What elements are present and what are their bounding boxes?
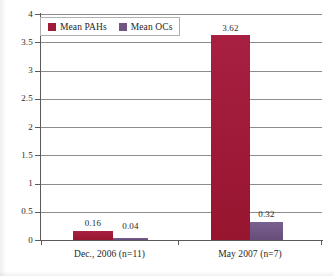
x-tick-mark-middle	[178, 240, 179, 245]
value-label-mean-pahs-dec-2006: 0.16	[73, 219, 113, 228]
bar-mean-pahs-dec-2006	[73, 231, 113, 240]
y-tick-mark-0.5	[35, 212, 41, 213]
chart-legend: Mean PAHs Mean OCs	[40, 17, 180, 36]
value-label-mean-pahs-may-2007: 3.62	[211, 24, 250, 33]
y-tick-label-2.5: 2.5	[3, 94, 33, 103]
y-tick-label-0.5: 0.5	[3, 207, 33, 216]
y-tick-mark-2.5	[35, 99, 41, 100]
bar-mean-pahs-may-2007	[211, 35, 250, 240]
legend-item-mean-ocs: Mean OCs	[119, 22, 173, 32]
legend-label-mean-ocs: Mean OCs	[131, 22, 173, 32]
bar-chart: 4 3.5 3 2.5 2 1.5 1 0.5 0 0.16 0.04 3.62…	[0, 0, 333, 276]
value-label-mean-ocs-may-2007: 0.32	[250, 210, 283, 219]
y-tick-label-3.5: 3.5	[3, 38, 33, 47]
y-tick-label-1: 1	[3, 179, 33, 188]
y-tick-label-4: 4	[3, 10, 33, 19]
gridline-4	[41, 14, 322, 15]
gridline-2.5	[41, 99, 322, 100]
legend-swatch-icon-mean-ocs	[119, 23, 127, 31]
legend-swatch-icon-mean-pahs	[48, 23, 56, 31]
y-tick-mark-4	[35, 14, 41, 15]
y-tick-mark-3.5	[35, 42, 41, 43]
scan-artifact-bottom	[0, 271, 333, 276]
y-tick-label-2: 2	[3, 123, 33, 132]
x-category-label-dec-2006: Dec., 2006 (n=11)	[41, 249, 178, 260]
x-axis-line	[41, 240, 323, 241]
x-category-label-may-2007: May 2007 (n=7)	[178, 249, 322, 260]
gridline-3.5	[41, 42, 322, 43]
legend-item-mean-pahs: Mean PAHs	[48, 22, 107, 32]
legend-label-mean-pahs: Mean PAHs	[60, 22, 107, 32]
plot-area	[41, 14, 322, 240]
y-tick-mark-1.5	[35, 155, 41, 156]
y-tick-label-0: 0	[3, 236, 33, 245]
bar-mean-ocs-may-2007	[250, 222, 283, 240]
gridline-1.5	[41, 155, 322, 156]
y-tick-mark-1	[35, 184, 41, 185]
y-tick-mark-3	[35, 71, 41, 72]
x-tick-mark-start	[41, 240, 42, 245]
gridline-2	[41, 127, 322, 128]
y-tick-mark-2	[35, 127, 41, 128]
x-tick-mark-end	[321, 240, 322, 245]
y-tick-label-3: 3	[3, 66, 33, 75]
value-label-mean-ocs-dec-2006: 0.04	[113, 222, 148, 231]
gridline-1	[41, 184, 322, 185]
y-tick-label-1.5: 1.5	[3, 151, 33, 160]
gridline-3	[41, 71, 322, 72]
